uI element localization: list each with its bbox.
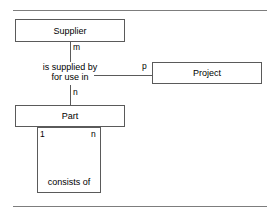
cardinality-label-m: m	[73, 43, 80, 52]
bottom-rule	[13, 206, 267, 207]
cardinality-label-one: 1	[40, 130, 45, 139]
top-rule	[13, 10, 267, 11]
diagram-canvas: Supplier m is supplied by for use in p P…	[0, 0, 279, 216]
entity-label-part: Part	[62, 111, 79, 121]
cardinality-label-n-recursive: n	[91, 130, 96, 139]
relationship-label-consists-of: consists of	[37, 177, 101, 188]
entity-label-supplier: Supplier	[53, 26, 86, 36]
entity-box-project[interactable]: Project	[152, 62, 262, 84]
connector-relationship-to-project	[94, 75, 152, 76]
connector-relationship-to-part	[70, 85, 71, 105]
cardinality-label-n-part: n	[73, 88, 78, 97]
relationship-label-line2: for use in	[20, 72, 120, 83]
entity-box-supplier[interactable]: Supplier	[15, 19, 125, 42]
entity-box-part[interactable]: Part	[15, 105, 125, 127]
entity-label-project: Project	[193, 68, 221, 78]
cardinality-label-p: p	[142, 62, 147, 71]
connector-supplier-to-relationship	[70, 42, 71, 62]
